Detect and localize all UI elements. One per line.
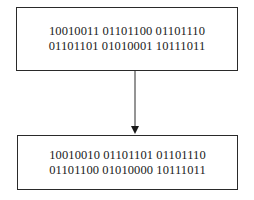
result-bits-line-1: 10010010 01101101 01101110 <box>49 148 206 163</box>
source-bits-line-1: 10010011 01101100 01101110 <box>49 24 205 39</box>
result-bits-box: 10010010 01101101 01101110 01101100 0101… <box>17 135 238 190</box>
source-bits-line-2: 01101101 01010001 10111011 <box>49 39 206 54</box>
result-bits-line-2: 01101100 01010000 10111011 <box>49 163 206 178</box>
source-bits-box: 10010011 01101100 01101110 01101101 0101… <box>16 7 238 71</box>
